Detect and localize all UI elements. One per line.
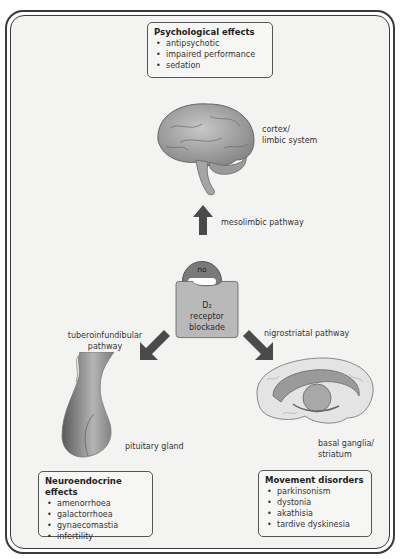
neuroendocrine-effects-list: amenorrhoea galactorrhoea gynaecomastia …: [45, 498, 146, 542]
list-item: antipsychotic: [154, 38, 266, 49]
pituitary-gland-illustration: [58, 352, 120, 460]
mesolimbic-arrow-icon: [193, 205, 213, 235]
psychological-effects-box: Psychological effects antipsychotic impa…: [147, 22, 273, 78]
psychological-effects-list: antipsychotic impaired performance sedat…: [154, 38, 266, 71]
tuberoinfundibular-label: tuberoinfundibular pathway: [60, 330, 150, 352]
d2-receptor-label: D₂ receptor blockade: [175, 300, 239, 333]
list-item: dystonia: [265, 497, 365, 508]
neuroendocrine-effects-box: Neuroendocrine effects amenorrhoea galac…: [38, 471, 153, 537]
movement-disorders-box: Movement disorders parkinsonism dystonia…: [258, 470, 372, 537]
mesolimbic-pathway-label: mesolimbic pathway: [221, 217, 304, 228]
receptor-line3: blockade: [175, 322, 239, 333]
nigrostriatal-pathway-label: nigrostriatal pathway: [264, 328, 349, 339]
list-item: sedation: [154, 60, 266, 71]
movement-disorders-title: Movement disorders: [265, 475, 365, 486]
movement-disorders-list: parkinsonism dystonia akathisia tardive …: [265, 486, 365, 530]
list-item: tardive dyskinesia: [265, 519, 365, 530]
receptor-line1: D₂: [175, 300, 239, 311]
list-item: amenorrhoea: [45, 498, 146, 509]
basal-ganglia-label: basal ganglia/ striatum: [318, 438, 374, 460]
list-item: akathisia: [265, 508, 365, 519]
cortex-label: cortex/ limbic system: [262, 124, 317, 146]
list-item: galactorrhoea: [45, 509, 146, 520]
psychological-effects-title: Psychological effects: [154, 27, 266, 38]
list-item: gynaecomastia: [45, 520, 146, 531]
tuberoinfundibular-line2: pathway: [60, 341, 150, 352]
basal-ganglia-line2: striatum: [318, 449, 374, 460]
tuberoinfundibular-line1: tuberoinfundibular: [60, 330, 150, 341]
brain-illustration: [150, 98, 260, 198]
basal-ganglia-illustration: [253, 356, 377, 426]
neuroendocrine-effects-title: Neuroendocrine effects: [45, 476, 146, 498]
list-item: infertility: [45, 531, 146, 542]
cortex-label-line2: limbic system: [262, 135, 317, 146]
list-item: parkinsonism: [265, 486, 365, 497]
pituitary-gland-label: pituitary gland: [125, 441, 184, 452]
receptor-line2: receptor: [175, 311, 239, 322]
list-item: impaired performance: [154, 49, 266, 60]
basal-ganglia-line1: basal ganglia/: [318, 438, 374, 449]
cortex-label-line1: cortex/: [262, 124, 317, 135]
